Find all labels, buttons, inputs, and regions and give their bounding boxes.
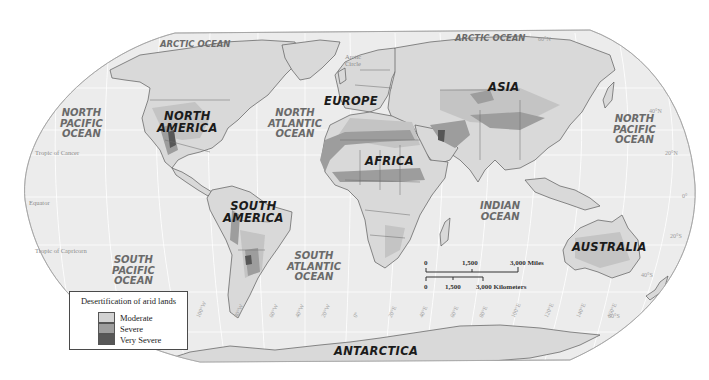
legend-label-very-severe: Very Severe <box>120 335 161 345</box>
label-south-atlantic-ocean: SOUTH ATLANTIC OCEAN <box>287 251 341 283</box>
lat-label-60n: 60°N <box>538 36 551 42</box>
label-australia: AUSTRALIA <box>572 241 647 253</box>
label-arctic-circle: Arctic Circle <box>345 54 361 68</box>
label-equator: Equator <box>29 200 50 207</box>
label-indian-ocean: INDIAN OCEAN <box>480 201 520 222</box>
lat-label-40s: 40°S <box>641 272 653 278</box>
label-south-america: SOUTH AMERICA <box>223 200 284 224</box>
label-europe: EUROPE <box>324 95 378 107</box>
km-tick-0: 0 <box>424 283 428 291</box>
label-north-pacific-ocean-left: NORTH PACIFIC OCEAN <box>60 108 103 140</box>
legend-item-moderate: Moderate <box>98 312 153 323</box>
swatch-severe <box>98 323 115 334</box>
label-tropic-of-cancer: Tropic of Cancer <box>35 150 79 157</box>
label-asia: ASIA <box>488 81 520 93</box>
legend-label-moderate: Moderate <box>120 313 153 323</box>
label-arctic-ocean-left: ARCTIC OCEAN <box>160 40 230 49</box>
miles-tick-1500: 1,500 <box>462 259 478 267</box>
lat-label-0: 0° <box>682 193 687 199</box>
label-north-atlantic-ocean: NORTH ATLANTIC OCEAN <box>268 108 322 140</box>
legend: Desertification of arid lands Moderate S… <box>69 291 188 350</box>
km-tick-1500: 1,500 <box>445 283 461 291</box>
world-desertification-map: ARCTIC OCEAN ARCTIC OCEAN NORTH PACIFIC … <box>0 0 709 380</box>
lat-label-40n: 40°N <box>649 108 662 114</box>
swatch-moderate <box>98 312 115 323</box>
legend-item-very-severe: Very Severe <box>98 334 161 345</box>
label-africa: AFRICA <box>365 155 414 167</box>
label-north-pacific-ocean-right: NORTH PACIFIC OCEAN <box>613 114 656 146</box>
label-antarctica: ANTARCTICA <box>334 345 418 357</box>
lat-label-20n: 20°N <box>665 150 678 156</box>
legend-title: Desertification of arid lands <box>70 296 187 306</box>
km-tick-3000: 3,000 Kilometers <box>476 283 527 291</box>
swatch-very-severe <box>98 334 115 345</box>
label-arctic-ocean-right: ARCTIC OCEAN <box>455 34 525 43</box>
miles-tick-3000: 3,000 Miles <box>510 259 544 267</box>
legend-label-severe: Severe <box>120 324 143 334</box>
lat-label-20s: 20°S <box>670 233 682 239</box>
legend-item-severe: Severe <box>98 323 143 334</box>
label-tropic-of-capricorn: Tropic of Capricorn <box>35 248 87 255</box>
miles-tick-0: 0 <box>424 259 428 267</box>
label-south-pacific-ocean: SOUTH PACIFIC OCEAN <box>112 255 155 287</box>
label-north-america: NORTH AMERICA <box>157 110 218 134</box>
